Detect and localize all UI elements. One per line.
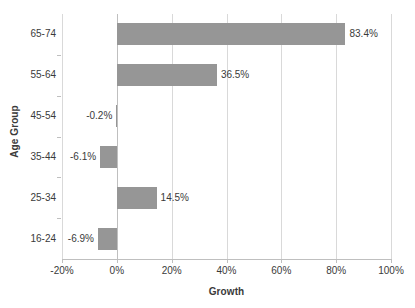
- x-axis-tick: [172, 259, 173, 263]
- bar-value-label: -6.1%: [70, 146, 96, 168]
- x-axis-title: Growth: [62, 286, 391, 297]
- bar: [100, 146, 117, 168]
- bar: [116, 105, 117, 127]
- x-axis-tick-label: -20%: [32, 265, 92, 276]
- x-axis-tick: [336, 259, 337, 263]
- y-axis-tick-label: 16-24: [10, 233, 56, 245]
- x-axis-tick-label: 60%: [251, 265, 311, 276]
- bar-value-label: 14.5%: [161, 187, 189, 209]
- y-axis-tick-label: 65-74: [10, 28, 56, 40]
- plot-area: -6.9%14.5%-6.1%-0.2%36.5%83.4%: [62, 14, 391, 259]
- gridline: [391, 14, 392, 259]
- x-axis-tick-label: 20%: [142, 265, 202, 276]
- y-axis-tick-labels: 16-2425-3435-4445-5455-6465-74: [8, 14, 56, 259]
- gridline: [227, 14, 228, 259]
- y-axis-tick: [57, 96, 61, 97]
- bar-value-label: 36.5%: [221, 64, 249, 86]
- y-axis-tick-label: 45-54: [10, 110, 56, 122]
- y-axis-tick-label: 35-44: [10, 151, 56, 163]
- bar: [117, 64, 217, 86]
- x-axis-tick: [62, 259, 63, 263]
- y-axis-tick-label: 25-34: [10, 192, 56, 204]
- x-axis-tick-label: 40%: [197, 265, 257, 276]
- y-axis-tick: [57, 177, 61, 178]
- x-axis-tick: [117, 259, 118, 263]
- bar: [98, 228, 117, 250]
- bar-value-label: 83.4%: [349, 23, 377, 45]
- bar: [117, 23, 346, 45]
- x-axis-tick: [227, 259, 228, 263]
- bar-value-label: -6.9%: [68, 228, 94, 250]
- gridline: [172, 14, 173, 259]
- bar-value-label: -0.2%: [86, 105, 112, 127]
- x-axis-tick-label: 80%: [306, 265, 366, 276]
- y-axis-tick: [57, 55, 61, 56]
- y-axis-tick: [57, 137, 61, 138]
- growth-by-age-group-bar-chart: Age Group 16-2425-3435-4445-5455-6465-74…: [0, 0, 415, 308]
- zero-gridline: [117, 14, 118, 259]
- x-axis-tick-label: 0%: [87, 265, 147, 276]
- bar: [117, 187, 157, 209]
- gridline: [62, 14, 63, 259]
- x-axis-tick-label: 100%: [361, 265, 415, 276]
- x-axis-tick: [281, 259, 282, 263]
- y-axis-tick-label: 55-64: [10, 69, 56, 81]
- gridline: [281, 14, 282, 259]
- gridline: [336, 14, 337, 259]
- y-axis-tick: [57, 218, 61, 219]
- x-axis-tick: [391, 259, 392, 263]
